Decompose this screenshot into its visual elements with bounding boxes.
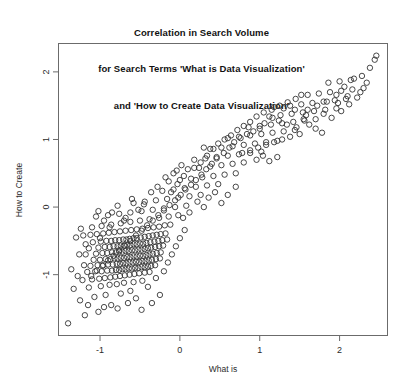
scatter-point — [116, 211, 121, 216]
scatter-point — [152, 263, 157, 268]
scatter-point — [299, 92, 304, 97]
scatter-point — [293, 96, 298, 101]
scatter-point — [175, 181, 180, 186]
scatter-point — [128, 219, 133, 224]
scatter-point — [149, 300, 154, 305]
y-axis-tick-labels: -1012 — [42, 69, 52, 278]
scatter-point — [165, 260, 170, 265]
y-tick-label: 2 — [42, 69, 52, 74]
scatter-point — [338, 108, 343, 113]
scatter-point — [75, 273, 80, 278]
scatter-point — [180, 215, 185, 220]
scatter-point — [96, 208, 101, 213]
plot-frame — [59, 44, 388, 336]
scatter-point — [153, 275, 158, 280]
scatter-point — [133, 296, 138, 301]
scatter-point — [103, 292, 108, 297]
scatter-point — [185, 167, 190, 172]
scatter-point — [93, 214, 98, 219]
scatter-point — [198, 192, 203, 197]
scatter-point — [327, 89, 332, 94]
scatter-point — [307, 122, 312, 127]
scatter-point — [128, 227, 133, 232]
scatter-point — [270, 130, 275, 135]
scatter-point — [222, 137, 227, 142]
scatter-point — [204, 167, 209, 172]
scatter-point — [275, 154, 280, 159]
scatter-point — [139, 208, 144, 213]
scatter-point — [346, 102, 351, 107]
scatter-point — [73, 235, 78, 240]
scatter-point — [334, 92, 339, 97]
scatter-point — [82, 313, 87, 318]
scatter-point — [71, 286, 76, 291]
y-axis-ticks — [53, 72, 59, 275]
scatter-point — [153, 198, 158, 203]
scatter-point — [193, 177, 198, 182]
x-tick-label: -1 — [96, 345, 104, 355]
scatter-point — [206, 195, 211, 200]
scatter-point — [121, 280, 126, 285]
scatter-point — [326, 80, 331, 85]
scatter-point — [96, 245, 101, 250]
scatter-point — [292, 107, 297, 112]
scatter-point — [348, 77, 353, 82]
scatter-point — [305, 92, 310, 97]
scatter-point — [137, 218, 142, 223]
scatter-point — [238, 135, 243, 140]
scatter-point — [182, 227, 187, 232]
scatter-point — [287, 134, 292, 139]
scatter-point — [167, 202, 172, 207]
scatter-point — [93, 251, 98, 256]
scatter-point — [254, 157, 259, 162]
scatter-point — [211, 146, 216, 151]
scatter-point — [351, 76, 356, 81]
scatter-point — [230, 161, 235, 166]
scatter-point — [247, 119, 252, 124]
plot-canvas: -1012 -1012 What is How to Create — [0, 0, 403, 392]
scatter-point — [151, 225, 156, 230]
scatter-point — [101, 304, 106, 309]
scatter-point — [155, 184, 160, 189]
scatter-point — [157, 256, 162, 261]
scatter-point — [311, 108, 316, 113]
scatter-point — [305, 107, 310, 112]
scatter-point — [164, 196, 169, 201]
scatter-point — [98, 283, 103, 288]
scatter-point — [96, 309, 101, 314]
x-axis-tick-labels: -1012 — [96, 345, 342, 355]
y-tick-label: 1 — [42, 137, 52, 142]
scatter-point — [172, 204, 177, 209]
scatter-point — [77, 252, 82, 257]
scatter-point — [160, 243, 165, 248]
scatter-point — [367, 65, 372, 70]
scatter-point — [233, 184, 238, 189]
scatter-point — [262, 121, 267, 126]
scatter-point — [319, 130, 324, 135]
scatter-point — [109, 210, 114, 215]
scatter-point — [316, 91, 321, 96]
scatter-point — [219, 162, 224, 167]
scatter-point — [241, 142, 246, 147]
scatter-point — [267, 114, 272, 119]
scatter-point — [364, 80, 369, 85]
x-tick-label: 1 — [257, 345, 262, 355]
scatter-point — [101, 218, 106, 223]
scatter-point — [204, 183, 209, 188]
scatter-point — [161, 269, 166, 274]
scatter-point — [259, 131, 264, 136]
scatter-point — [313, 126, 318, 131]
scatter-point — [115, 306, 120, 311]
scatter-point — [162, 223, 167, 228]
scatter-point — [254, 114, 259, 119]
scatter-point — [83, 242, 88, 247]
scatter-point — [216, 141, 221, 146]
scatter-point — [324, 99, 329, 104]
scatter-point — [359, 73, 364, 78]
scatter-point — [271, 139, 276, 144]
scatter-point — [227, 145, 232, 150]
scatter-point — [156, 224, 161, 229]
scatter-point — [78, 226, 83, 231]
scatter-point — [157, 292, 162, 297]
scatter-point — [329, 115, 334, 120]
